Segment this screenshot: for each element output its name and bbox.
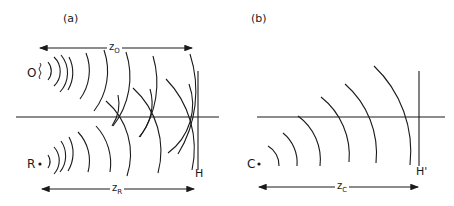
reconstruction-wavefronts: [268, 66, 411, 166]
panel-a-label: (a): [63, 13, 78, 24]
distance-subscript: R: [117, 188, 122, 196]
panel-a: [16, 48, 219, 189]
reference-wavefronts: [48, 79, 194, 176]
reconstruction-source-label: C: [247, 158, 255, 170]
reference-source-label: R: [27, 158, 35, 170]
distance-subscript: C: [342, 186, 347, 194]
distance-label-zc: zC: [335, 181, 349, 194]
hologram-diagram: [0, 0, 454, 206]
object-source-label: O: [27, 67, 36, 79]
panel-b-label: (b): [251, 13, 267, 24]
distance-subscript: O: [114, 47, 120, 55]
hologram-label-h: H: [195, 168, 203, 179]
object-wavy-marker: [39, 63, 41, 79]
reconstruction-source-dot: [257, 162, 260, 165]
distance-label-zr: zR: [110, 183, 124, 196]
reference-source-dot: [38, 162, 41, 165]
distance-label-zo: zO: [107, 42, 122, 55]
hologram-label-h-prime: H': [416, 166, 427, 177]
